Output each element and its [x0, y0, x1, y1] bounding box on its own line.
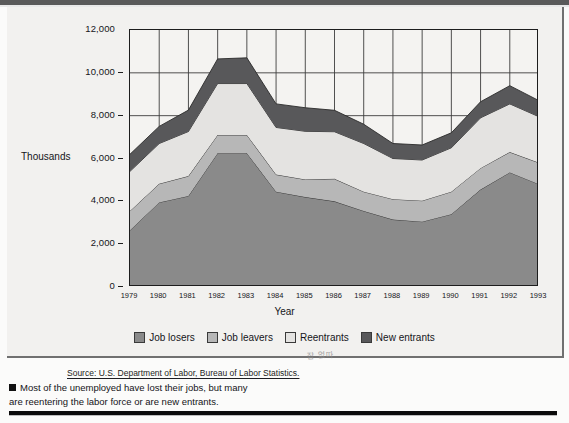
y-tick-mark	[118, 115, 123, 116]
y-tick-mark	[118, 72, 123, 73]
y-tick-label: 4,000	[91, 194, 115, 205]
x-axis: 1979198019811982198319841985198619871988…	[129, 291, 538, 305]
handwritten-annotation: 잡 없따	[307, 348, 335, 360]
legend-swatch-icon	[361, 332, 372, 343]
x-tick-label: 1988	[384, 291, 401, 300]
chart-legend: Job losersJob leaversReentrantsNew entra…	[7, 332, 562, 343]
y-tick-label: 6,000	[91, 152, 115, 163]
legend-item: New entrants	[361, 332, 435, 343]
x-tick-label: 1981	[179, 291, 196, 300]
y-tick-label: 10,000	[85, 66, 115, 77]
y-tick-label: 12,000	[85, 23, 115, 34]
x-tick-label: 1993	[530, 291, 547, 300]
square-bullet-icon	[9, 384, 16, 391]
legend-swatch-icon	[285, 332, 296, 343]
y-axis-title: Thousands	[21, 151, 70, 162]
plot-wrapper	[129, 29, 538, 286]
x-axis-title: Year	[7, 306, 562, 317]
legend-label: Job leavers	[222, 332, 273, 343]
bottom-rule-highlight	[9, 415, 557, 416]
x-tick-label: 1990	[442, 291, 459, 300]
y-tick-mark	[118, 243, 123, 244]
stacked-area-chart	[130, 30, 538, 286]
y-tick-label: 0	[110, 280, 115, 291]
y-tick-label: 8,000	[91, 109, 115, 120]
x-tick-label: 1980	[150, 291, 167, 300]
y-tick-mark	[118, 286, 123, 287]
y-tick-mark	[118, 158, 123, 159]
legend-label: New entrants	[376, 332, 435, 343]
y-tick-mark	[118, 200, 123, 201]
legend-label: Job losers	[149, 332, 195, 343]
x-tick-label: 1987	[354, 291, 371, 300]
x-tick-label: 1982	[208, 291, 225, 300]
x-tick-label: 1983	[238, 291, 255, 300]
x-tick-label: 1979	[121, 291, 138, 300]
legend-label: Reentrants	[300, 332, 349, 343]
figure-panel: 02,0004,0006,0008,00010,00012,000 Thousa…	[7, 7, 564, 358]
x-tick-label: 1989	[413, 291, 430, 300]
y-tick-label: 2,000	[91, 237, 115, 248]
x-tick-label: 1992	[500, 291, 517, 300]
legend-item: Job losers	[134, 332, 195, 343]
legend-item: Job leavers	[207, 332, 273, 343]
legend-swatch-icon	[134, 332, 145, 343]
x-tick-label: 1984	[267, 291, 284, 300]
figure-caption: Most of the unemployed have lost their j…	[9, 381, 429, 408]
legend-swatch-icon	[207, 332, 218, 343]
x-tick-label: 1991	[471, 291, 488, 300]
page-root: 02,0004,0006,0008,00010,00012,000 Thousa…	[0, 0, 569, 423]
plot-area	[129, 29, 538, 286]
x-tick-label: 1985	[296, 291, 313, 300]
legend-item: Reentrants	[285, 332, 349, 343]
caption-line-2: are reentering the labor force or are ne…	[9, 396, 219, 407]
source-note: Source: U.S. Department of Labor, Bureau…	[67, 368, 299, 378]
caption-line-1: Most of the unemployed have lost their j…	[20, 382, 248, 393]
x-tick-label: 1986	[325, 291, 342, 300]
